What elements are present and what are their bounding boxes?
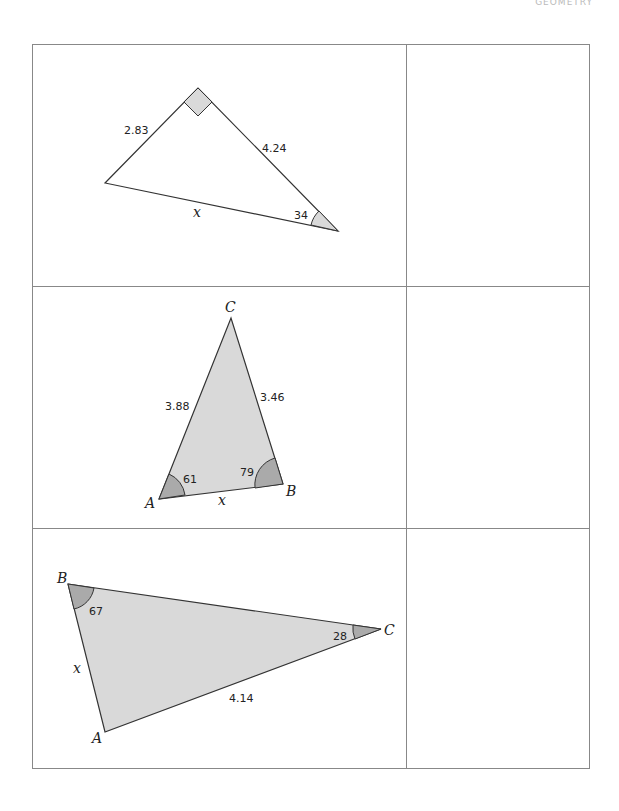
side-label: 3.46 [260,391,285,404]
vertex-label: B [285,483,296,499]
figures: 2.83 4.24 x 34 C A B 3.88 3.46 x 61 79 B… [0,0,619,811]
angle-c-marker [353,625,381,639]
angle-label: 61 [183,473,197,486]
vertex-label: A [143,495,155,511]
side-label: 4.24 [262,142,287,155]
vertex-label: C [225,299,236,315]
unknown-side-label: x [73,660,81,676]
vertex-label: A [90,730,102,746]
triangle-3: B C A 67 28 x 4.14 [56,570,395,746]
side-label: 4.14 [229,692,254,705]
angle-label: 34 [294,209,308,222]
vertex-label: B [56,570,67,586]
angle-label: 79 [240,466,254,479]
side-label: 2.83 [124,124,149,137]
angle-label: 67 [89,605,103,618]
unknown-side-label: x [193,204,201,220]
triangle-1: 2.83 4.24 x 34 [105,88,338,231]
angle-label: 28 [333,630,347,643]
vertex-label: C [384,622,395,638]
side-label: 3.88 [165,400,190,413]
triangle-2: C A B 3.88 3.46 x 61 79 [143,299,296,511]
unknown-side-label: x [218,492,226,508]
